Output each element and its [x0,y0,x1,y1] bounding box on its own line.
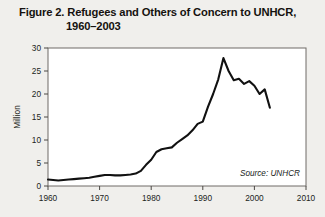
x-tick-label: 1990 [194,193,213,203]
x-axis-tick-labels: 196019701980199020002010 [39,193,316,203]
plot-frame [48,48,306,186]
y-tick-label: 30 [32,43,42,53]
figure-container: Figure 2. Refugees and Others of Concern… [0,0,325,217]
source-note: Source: UNHCR [240,169,300,178]
y-tick-label: 5 [36,158,41,168]
x-tick-label: 2000 [245,193,264,203]
y-tick-label: 15 [32,112,42,122]
x-tick-label: 2010 [297,193,316,203]
figure-title: Figure 2. Refugees and Others of Concern… [19,6,311,33]
x-axis-ticks [48,186,306,190]
figure-title-line-1: Figure 2. Refugees and Others of Concern… [19,6,311,20]
y-tick-label: 10 [32,135,42,145]
plot-background [48,48,306,186]
line-chart: 051015202530 196019701980199020002010 Mi… [0,36,325,217]
y-tick-label: 20 [32,89,42,99]
figure-title-line-2: 1960–2003 [19,20,311,34]
y-axis-ticks [44,48,48,186]
y-axis-label: Million [12,105,22,129]
chart-area: 051015202530 196019701980199020002010 Mi… [0,36,325,217]
y-tick-label: 25 [32,66,42,76]
x-tick-label: 1960 [39,193,58,203]
y-axis-tick-labels: 051015202530 [32,43,42,191]
x-tick-label: 1970 [90,193,109,203]
y-tick-label: 0 [36,181,41,191]
x-tick-label: 1980 [142,193,161,203]
